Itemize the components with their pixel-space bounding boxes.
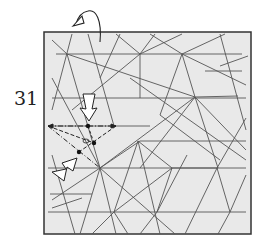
origami-diagram <box>0 0 260 244</box>
